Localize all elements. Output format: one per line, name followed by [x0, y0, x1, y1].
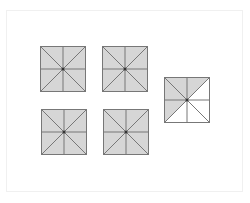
center-dot: [63, 131, 66, 134]
square-1: [40, 46, 86, 92]
square-2: [102, 46, 148, 92]
center-dot: [186, 99, 189, 102]
square-3: [41, 109, 87, 155]
center-dot: [125, 131, 128, 134]
center-dot: [124, 68, 127, 71]
square-4: [103, 109, 149, 155]
square-5: [164, 77, 210, 123]
center-dot: [62, 68, 65, 71]
